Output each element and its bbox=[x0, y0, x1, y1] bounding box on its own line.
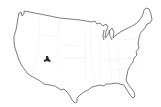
map-pin-icon[interactable] bbox=[44, 56, 51, 62]
us-outline bbox=[14, 8, 152, 103]
us-map: United States outline map Location marke… bbox=[0, 0, 161, 107]
us-map-svg bbox=[0, 0, 161, 107]
